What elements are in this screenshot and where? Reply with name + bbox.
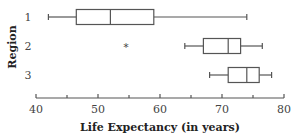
x-tick-label: 40 — [29, 103, 43, 116]
outlier-marker: * — [123, 41, 129, 54]
x-axis: 4050607080 — [29, 94, 291, 116]
iqr-box — [76, 10, 154, 25]
x-tick-label: 80 — [277, 103, 291, 116]
box-plot-chart: 123 Region * 4050607080 Life Expectancy … — [0, 0, 306, 137]
category-label: 1 — [25, 11, 32, 24]
boxes: * — [48, 10, 271, 83]
category-labels: 123 — [25, 11, 32, 82]
box-region-3 — [210, 68, 272, 83]
iqr-box — [203, 39, 240, 54]
category-label: 3 — [25, 69, 32, 82]
x-tick-label: 60 — [153, 103, 167, 116]
category-label: 2 — [25, 40, 32, 53]
iqr-box — [228, 68, 259, 83]
x-axis-title: Life Expectancy (in years) — [80, 121, 240, 134]
box-region-1 — [48, 10, 246, 25]
x-tick-label: 50 — [91, 103, 105, 116]
y-axis-title: Region — [6, 25, 19, 68]
box-region-2: * — [123, 39, 262, 55]
x-tick-label: 70 — [215, 103, 229, 116]
